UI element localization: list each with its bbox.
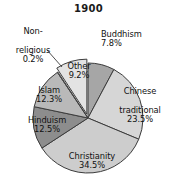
pie-label-buddhism: Buddhism 7.8% [101,21,171,58]
pie-label-chinese-traditional-line1: Chinese [124,86,156,96]
pie-value-buddhism: 7.8% [101,39,171,48]
pie-label-hinduism: Hinduism 12.5% [18,107,76,144]
pie-value-christianity: 34.5% [52,161,132,170]
pie-label-chinese-traditional: Chinese traditional 23.5% [108,78,172,133]
pie-label-non-religious-line1: Non- [23,26,42,36]
pie-value-islam: 12.3% [27,95,71,104]
pie-value-chinese-traditional: 23.5% [108,115,172,124]
pie-label-christianity: Christianity 34.5% [52,143,132,180]
pie-value-hinduism: 12.5% [18,125,76,134]
pie-value-non-religious: 0.2% [2,55,64,64]
pie-label-non-religious: Non- religious 0.2% [2,18,64,73]
pie-chart-figure: 1900 Non- religious 0.2% Buddhism 7.8% O… [0,0,177,193]
